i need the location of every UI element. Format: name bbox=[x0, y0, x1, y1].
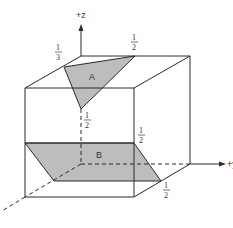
x-axis-dashed bbox=[2, 197, 25, 211]
plane-a-label: A bbox=[89, 72, 95, 82]
intercept-a-top: 1 2 bbox=[131, 33, 138, 52]
plane-b bbox=[25, 143, 161, 181]
svg-text:2: 2 bbox=[85, 121, 89, 130]
edge-top-right bbox=[134, 56, 190, 88]
svg-text:3: 3 bbox=[56, 53, 60, 62]
z-axis-arrow-icon bbox=[79, 24, 84, 31]
svg-text:2: 2 bbox=[164, 191, 168, 200]
intercept-b-bottom: 1 2 bbox=[163, 181, 170, 200]
plane-a bbox=[64, 56, 135, 109]
svg-text:1: 1 bbox=[132, 33, 136, 42]
y-axis-label: +y bbox=[227, 159, 233, 169]
svg-text:2: 2 bbox=[132, 43, 136, 52]
svg-text:2: 2 bbox=[139, 136, 143, 145]
y-axis-arrow-icon bbox=[219, 162, 226, 167]
svg-text:1: 1 bbox=[164, 181, 168, 190]
svg-text:1: 1 bbox=[85, 111, 89, 120]
plane-b-label: B bbox=[96, 150, 102, 160]
svg-text:1: 1 bbox=[56, 43, 60, 52]
unit-cell-diagram: +z +y A B 1 3 1 2 1 2 1 2 1 2 bbox=[0, 0, 233, 228]
intercept-b-right: 1 2 bbox=[138, 126, 145, 145]
intercept-a-left: 1 3 bbox=[55, 43, 62, 62]
z-axis-label: +z bbox=[76, 10, 86, 20]
intercept-a-z: 1 2 bbox=[84, 111, 91, 130]
svg-text:1: 1 bbox=[139, 126, 143, 135]
